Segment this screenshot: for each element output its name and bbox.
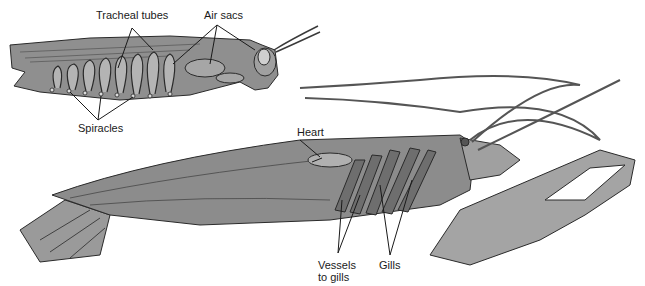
label-vessels-to-gills: Vessels to gills [318, 259, 356, 283]
label-air-sacs: Air sacs [204, 9, 243, 21]
label-vessels-line2: to gills [318, 271, 356, 283]
label-vessels-line1: Vessels [318, 259, 356, 271]
label-gills: Gills [379, 259, 400, 271]
insect-body [10, 26, 320, 100]
crustacean-body [20, 76, 635, 265]
diagram-artwork [0, 0, 645, 286]
label-tracheal-tubes: Tracheal tubes [96, 9, 168, 21]
label-heart: Heart [297, 126, 324, 138]
label-spiracles: Spiracles [78, 122, 123, 134]
